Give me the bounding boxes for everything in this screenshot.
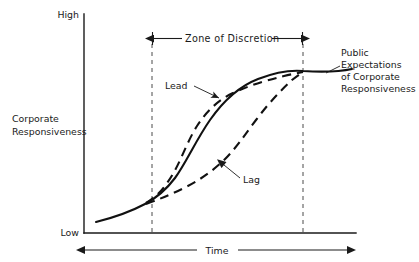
expectations-label-line3: of Corporate [341, 71, 400, 82]
x-axis-title: Time [205, 245, 229, 256]
curves-group [96, 69, 352, 222]
y-tick-high: High [57, 9, 79, 20]
chart-canvas: Zone of Discretion Lead Lag Public Expec… [0, 0, 419, 262]
expectations-label-line4: Responsiveness [341, 83, 416, 94]
expectations-label-line2: Expectations [341, 59, 402, 70]
lag-leader-line [224, 165, 240, 178]
expectations-label-line1: Public [341, 47, 369, 58]
zone-of-discretion-span: Zone of Discretion [153, 32, 303, 45]
lead-leader-line [194, 86, 219, 98]
zone-boundary-lines [152, 36, 303, 233]
lag-label: Lag [243, 174, 260, 185]
lag-callout: Lag [224, 165, 260, 185]
x-axis-label-group: Time [85, 245, 347, 256]
lead-callout: Lead [165, 80, 219, 98]
axes-group [84, 14, 356, 233]
lead-label: Lead [165, 80, 188, 91]
zone-label: Zone of Discretion [185, 33, 279, 44]
series-public-expectations-curve [96, 69, 352, 222]
y-axis-title-line1: Corporate [12, 113, 59, 124]
chart-figure: Zone of Discretion Lead Lag Public Expec… [0, 0, 419, 262]
y-axis-labels: High Low Corporate Responsiveness [12, 9, 87, 238]
y-tick-low: Low [61, 227, 80, 238]
y-axis-title-line2: Responsiveness [12, 126, 87, 137]
